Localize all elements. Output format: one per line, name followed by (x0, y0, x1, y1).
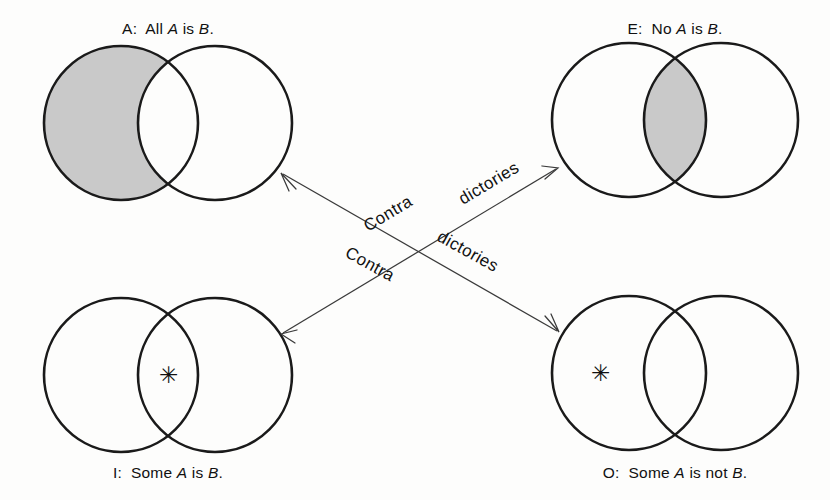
relation-arrow-e-i (281, 166, 558, 343)
relation-arrow-a-o (281, 173, 559, 332)
relation-arrow-a-o-head-end (545, 314, 559, 332)
relation-label-a-o-word2: dictories (434, 227, 502, 276)
diagram-O: ✳ O: Some A is not B. (552, 296, 798, 481)
relation-arrow-a-o-line (283, 174, 557, 331)
diagram-A: A: All A is B. (40, 0, 631, 215)
diagram-I: ✳ I: Some A is B. (44, 298, 292, 481)
relation-arrow-e-i-line (283, 169, 556, 333)
relation-label-e-i-word2: dictories (455, 158, 522, 209)
diagram-I-star-icon: ✳ (159, 362, 178, 388)
diagram-I-caption: I: Some A is B. (113, 464, 223, 481)
relation-label-a-o: Contra dictories (342, 227, 502, 286)
diagram-A-caption: A: All A is B. (122, 20, 214, 37)
diagram-O-circle-b (644, 296, 798, 450)
relation-label-e-i-word1: Contra (360, 192, 416, 236)
relation-label-e-i: Contra dictories (360, 158, 522, 236)
square-of-opposition-figure: A: All A is B. E: No A is B. ✳ I: Some A… (0, 0, 830, 500)
square-of-opposition-svg: A: All A is B. E: No A is B. ✳ I: Some A… (0, 0, 830, 500)
diagram-O-circle-a (552, 296, 706, 450)
relation-label-a-o-word1: Contra (342, 243, 398, 286)
diagram-O-caption: O: Some A is not B. (603, 464, 747, 481)
diagram-E: E: No A is B. (552, 20, 798, 197)
diagram-E-caption: E: No A is B. (627, 20, 722, 37)
diagram-O-star-icon: ✳ (591, 360, 610, 386)
